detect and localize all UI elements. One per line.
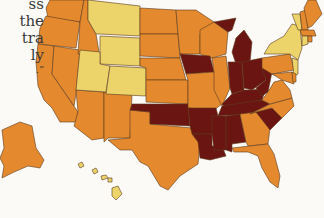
state-colorado	[106, 66, 146, 96]
state-massachusetts	[300, 30, 316, 36]
state-southdakota	[140, 34, 180, 58]
cropped-article-text: ss the tra ly .”	[0, 0, 44, 76]
text-line-4: ly	[0, 47, 44, 64]
state-mississippi	[212, 116, 226, 150]
state-northdakota	[140, 8, 178, 34]
state-delaware	[292, 72, 296, 82]
state-florida	[232, 144, 280, 188]
state-hawaii	[78, 162, 122, 200]
state-arizona	[74, 90, 104, 140]
state-connecticut	[302, 36, 308, 46]
state-indiana	[228, 62, 244, 94]
state-kansas	[146, 80, 188, 104]
text-line-3: tra	[0, 30, 44, 47]
state-pennsylvania	[262, 54, 294, 74]
state-alaska	[0, 122, 44, 178]
state-iowa	[180, 54, 214, 74]
state-oregon	[38, 16, 80, 48]
text-line-5: .”	[0, 64, 44, 76]
state-nebraska	[140, 58, 186, 80]
state-rhodeisland	[308, 36, 312, 42]
state-montana	[88, 0, 140, 36]
state-newyork	[264, 24, 302, 60]
state-wyoming	[100, 36, 140, 66]
us-choropleth-map	[0, 0, 324, 218]
text-line-2: the	[0, 13, 44, 30]
state-newmexico	[104, 92, 132, 142]
